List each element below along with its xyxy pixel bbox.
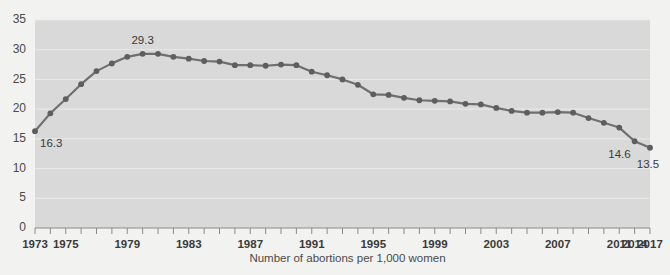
x-axis-tick-label: 1973	[22, 238, 48, 250]
data-point-marker	[278, 62, 284, 68]
data-point-annotation: 29.3	[131, 34, 153, 46]
data-point-marker	[78, 81, 84, 87]
x-axis-title: Number of abortions per 1,000 women	[249, 252, 445, 264]
data-point-marker	[47, 110, 53, 116]
data-point-marker	[386, 92, 392, 98]
line-chart: 0510152025303519731975197919831987199119…	[0, 0, 670, 275]
data-point-marker	[170, 54, 176, 60]
data-point-marker	[463, 101, 469, 107]
x-axis-ticks	[35, 228, 650, 234]
data-point-marker	[247, 62, 253, 68]
x-axis-tick-label: 1987	[237, 238, 263, 250]
data-point-marker	[340, 77, 346, 83]
data-point-marker	[186, 56, 192, 62]
y-axis-tick-label: 20	[13, 101, 27, 115]
x-axis-tick-label: 1983	[176, 238, 202, 250]
data-point-marker	[124, 54, 130, 60]
data-point-marker	[32, 128, 38, 134]
x-axis-tick-label: 1979	[114, 238, 140, 250]
data-point-annotation: 16.3	[40, 137, 62, 149]
chart-canvas: 0510152025303519731975197919831987199119…	[0, 0, 670, 275]
data-point-marker	[63, 96, 69, 102]
data-point-marker	[493, 105, 499, 111]
data-point-marker	[478, 101, 484, 107]
x-axis-tick-label: 1975	[53, 238, 79, 250]
y-axis-tick-label: 35	[13, 12, 27, 26]
y-axis-tick-label: 15	[13, 131, 27, 145]
data-point-annotation: 14.6	[608, 148, 630, 160]
data-point-marker	[539, 110, 545, 116]
data-point-marker	[524, 110, 530, 116]
y-axis-tick-label: 0	[19, 220, 26, 234]
data-point-marker	[416, 97, 422, 103]
y-axis-tick-label: 30	[13, 42, 27, 56]
data-point-marker	[217, 59, 223, 65]
y-axis-tick-label: 25	[13, 72, 27, 86]
data-point-marker	[263, 63, 269, 69]
data-point-marker	[570, 110, 576, 116]
x-axis-tick-label: 1999	[422, 238, 448, 250]
data-point-marker	[370, 91, 376, 97]
data-point-marker	[109, 60, 115, 66]
data-point-marker	[155, 51, 161, 57]
data-point-marker	[647, 145, 653, 151]
data-point-marker	[201, 58, 207, 64]
data-point-marker	[232, 62, 238, 68]
data-point-marker	[586, 115, 592, 121]
data-point-marker	[509, 108, 515, 114]
data-point-marker	[432, 98, 438, 104]
x-axis-tick-label: 1995	[360, 238, 386, 250]
y-axis-tick-label: 5	[19, 190, 26, 204]
data-point-marker	[401, 95, 407, 101]
data-point-marker	[632, 138, 638, 144]
x-axis-tick-label: 2003	[483, 238, 509, 250]
data-point-marker	[616, 125, 622, 131]
data-point-marker	[324, 72, 330, 78]
x-axis-tick-label: 2007	[545, 238, 571, 250]
data-point-marker	[140, 51, 146, 57]
x-axis-tick-label: 2017	[637, 238, 663, 250]
data-point-marker	[355, 82, 361, 88]
data-point-annotation: 13.5	[637, 158, 659, 170]
y-axis-tick-label: 10	[13, 161, 27, 175]
data-point-marker	[94, 68, 100, 74]
data-point-marker	[293, 62, 299, 68]
plot-area-background	[35, 20, 650, 228]
data-point-marker	[555, 109, 561, 115]
data-point-marker	[309, 69, 315, 75]
x-axis-tick-label: 1991	[299, 238, 325, 250]
data-point-marker	[601, 120, 607, 126]
data-point-marker	[447, 99, 453, 105]
